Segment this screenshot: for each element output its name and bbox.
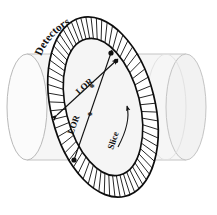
lor-short-detector-hit <box>114 59 119 64</box>
lor-long-endpoint-upper <box>108 50 113 55</box>
pet-scanner-diagram: LOR * LOR * Slice Detectors <box>0 0 217 215</box>
figure-canvas: LOR * LOR * Slice Detectors <box>0 0 217 215</box>
annihilation-marker-upper: * <box>89 81 95 93</box>
cylinder-near-cap <box>7 54 47 160</box>
annihilation-marker-lower: * <box>87 109 93 121</box>
lor-long-endpoint-lower <box>71 157 76 162</box>
